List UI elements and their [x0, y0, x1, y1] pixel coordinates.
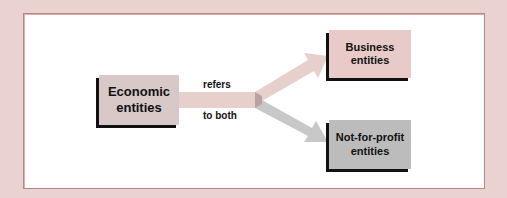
economic-label-1: Economic — [108, 84, 170, 100]
refers-label: refers — [203, 79, 231, 90]
business-entities-box: Business entities — [329, 30, 411, 78]
business-label-2: entities — [346, 54, 395, 67]
stem-arrow — [179, 92, 255, 108]
not-for-profit-entities-box: Not-for-profit entities — [329, 120, 411, 169]
arrows — [0, 0, 507, 198]
economic-label-2: entities — [108, 100, 170, 116]
nfp-label-1: Not-for-profit — [336, 131, 404, 144]
business-label-1: Business — [346, 41, 395, 54]
nfp-label-2: entities — [336, 145, 404, 158]
economic-entities-box: Economic entities — [99, 75, 179, 125]
arrow-to-business — [255, 53, 328, 101]
to-both-label: to both — [203, 110, 237, 121]
arrow-to-nonprofit — [255, 100, 328, 142]
